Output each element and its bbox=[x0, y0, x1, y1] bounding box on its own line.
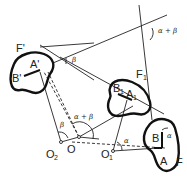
rotation-diagram: F A B F 1 B 1 A 1 F' A' B' O 2 O O 1 α +… bbox=[0, 0, 187, 179]
label-Aprime: A' bbox=[30, 58, 39, 70]
line-O-horizontal bbox=[79, 137, 99, 139]
angle-label-O2: β bbox=[59, 121, 64, 129]
label-A: A bbox=[160, 155, 168, 167]
segment-AprimeBprime bbox=[24, 70, 40, 76]
pivot-O bbox=[78, 136, 81, 139]
line-top-left-lower bbox=[40, 45, 94, 80]
angle-arc-top-right bbox=[150, 28, 153, 40]
line-top-left-upper bbox=[40, 43, 94, 47]
angle-arc-O1 bbox=[117, 142, 122, 150]
label-F1-sub: 1 bbox=[143, 74, 147, 81]
label-Bprime: B' bbox=[12, 72, 21, 84]
label-B: B bbox=[152, 132, 159, 144]
angle-label-B: α bbox=[167, 132, 172, 140]
label-Fprime: F' bbox=[16, 42, 25, 54]
label-O: O bbox=[67, 143, 76, 155]
line-O2-to-O bbox=[61, 137, 79, 142]
label-F: F bbox=[176, 156, 183, 168]
label-O2-sub: 2 bbox=[54, 154, 58, 161]
angle-label-O1: α bbox=[124, 137, 129, 145]
angle-label-top-right: α + β bbox=[158, 27, 177, 35]
angle-label-O: α + β bbox=[74, 113, 93, 121]
line-top-long bbox=[53, 15, 167, 63]
angle-arc-B bbox=[162, 128, 168, 130]
label-O1-sub: 1 bbox=[109, 154, 113, 161]
angle-label-top-left: β bbox=[71, 56, 76, 64]
label-B1-sub: 1 bbox=[120, 88, 124, 95]
pivot-O1 bbox=[112, 150, 115, 153]
pivot-O2 bbox=[60, 141, 63, 144]
label-F1: F bbox=[136, 68, 143, 80]
label-A1-sub: 1 bbox=[133, 94, 137, 101]
line-O-to-A1 bbox=[79, 106, 133, 137]
line-O2-to-Aprime bbox=[40, 72, 61, 142]
